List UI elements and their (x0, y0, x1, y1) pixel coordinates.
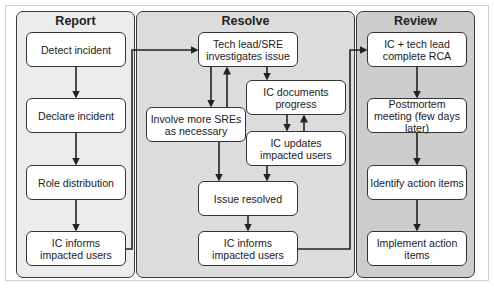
node-investigate-issue: Tech lead/SRE investigates issue (198, 32, 298, 67)
node-implement-action-items: Implement action items (367, 231, 467, 266)
node-identify-action-items: Identify action items (367, 165, 467, 200)
node-involve-more-sres: Involve more SREs as necessary (146, 107, 246, 142)
resolve-panel-title: Resolve (137, 14, 354, 28)
node-postmortem-meeting: Postmortem meeting (few days later) (367, 98, 467, 133)
node-role-distribution: Role distribution (26, 165, 126, 200)
node-resolve-ic-informs-users: IC informs impacted users (198, 231, 298, 266)
node-issue-resolved: Issue resolved (198, 181, 298, 216)
node-ic-updates-users: IC updates impacted users (246, 131, 346, 166)
node-detect-incident: Detect incident (26, 32, 126, 67)
report-panel-title: Report (17, 14, 134, 28)
node-complete-rca: IC + tech lead complete RCA (367, 32, 467, 67)
review-panel-title: Review (357, 14, 474, 28)
node-declare-incident: Declare incident (26, 98, 126, 133)
node-report-ic-informs-users: IC informs impacted users (26, 231, 126, 266)
node-ic-documents-progress: IC documents progress (246, 80, 346, 115)
